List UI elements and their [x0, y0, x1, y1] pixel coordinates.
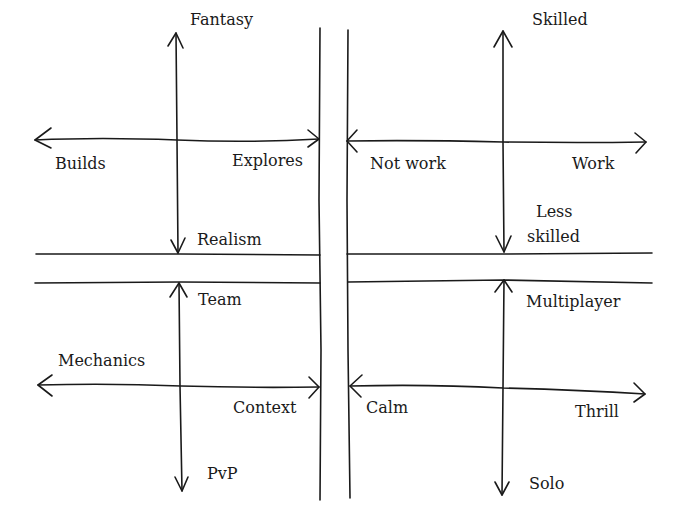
divider-vertical-right [347, 30, 350, 498]
label-realism: Realism [197, 231, 262, 249]
label-team: Team [198, 291, 242, 309]
label-less-skilled-line1: Less [536, 203, 573, 221]
divider-horizontal-bottom-right [348, 280, 652, 283]
label-builds: Builds [55, 155, 106, 173]
label-less-skilled-line2: skilled [527, 228, 580, 246]
label-context: Context [233, 399, 297, 417]
divider-horizontal-bottom-left [35, 282, 320, 283]
bl-vertical-arrow [170, 283, 188, 491]
label-work: Work [572, 155, 614, 173]
label-fantasy: Fantasy [190, 11, 253, 29]
divider-horizontal-top-left [36, 254, 320, 255]
label-multiplayer: Multiplayer [526, 293, 620, 311]
divider-vertical-left [319, 28, 321, 500]
label-skilled: Skilled [532, 11, 588, 29]
label-pvp: PvP [207, 465, 238, 483]
bl-horizontal-arrow [38, 375, 319, 398]
divider-horizontal-top-right [347, 253, 652, 254]
quadrant-diagram: Fantasy Realism Builds Explores Skilled … [0, 0, 683, 521]
axes-drawing [0, 0, 683, 521]
label-mechanics: Mechanics [58, 352, 145, 370]
label-solo: Solo [529, 475, 564, 493]
label-explores: Explores [232, 152, 303, 170]
tl-vertical-arrow [168, 33, 185, 253]
tr-horizontal-arrow [347, 130, 646, 153]
label-not-work: Not work [370, 155, 446, 173]
label-thrill: Thrill [575, 403, 619, 421]
label-calm: Calm [366, 399, 408, 417]
